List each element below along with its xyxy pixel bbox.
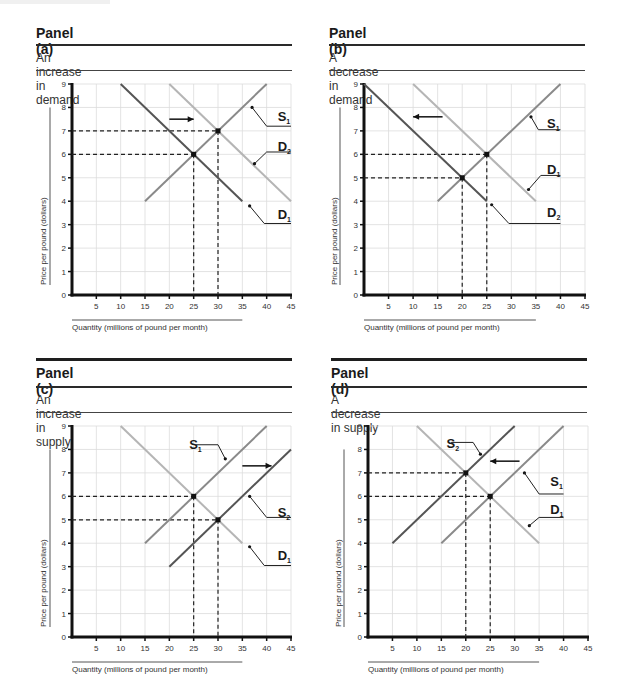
leader-line [529,517,563,525]
y-tick-label: 6 [354,150,359,159]
y-tick-label: 8 [358,445,363,454]
curve-label-subscript: 1 [198,446,202,453]
curve-d2 [169,84,291,201]
y-tick-label: 4 [354,197,359,206]
y-tick-label: 5 [62,174,67,183]
x-tick-label: 40 [262,302,271,311]
y-tick-label: 0 [62,291,67,300]
chart-panel-b: 012345678951015202530354045Quantity (mil… [330,80,590,332]
curve-label-subscript: 1 [559,483,563,490]
x-axis-title: Quantity (millions of pound per month) [72,323,208,332]
x-tick-label: 35 [238,644,247,653]
x-tick-label: 20 [458,302,467,311]
curve-label: D1 [278,207,291,223]
curve-label: S1 [550,474,563,490]
y-tick-label: 7 [62,127,67,136]
y-tick-label: 1 [62,268,67,277]
curve-label: D2 [547,205,560,221]
y-tick-label: 7 [358,469,363,478]
y-tick-label: 3 [62,221,67,230]
x-tick-label: 45 [287,644,296,653]
y-tick-label: 0 [62,633,67,642]
arrow-head-icon [413,114,419,120]
equilibrium-point [460,175,465,180]
x-tick-label: 45 [287,302,296,311]
chart-panel-d: 012345678951015202530354045Quantity (mil… [334,422,593,674]
curve-d1 [413,84,536,201]
x-tick-label: 35 [238,302,247,311]
curve-label: S1 [278,109,291,125]
x-tick-label: 15 [437,644,446,653]
curve-label-subscript: 2 [286,514,290,521]
x-tick-label: 25 [189,644,198,653]
curve-label-subscript: 2 [287,148,291,155]
curve-label: D1 [550,502,563,518]
curve-label: S2 [278,505,291,521]
x-tick-label: 5 [94,644,99,653]
x-tick-label: 25 [482,302,491,311]
curve-d1 [417,426,539,543]
x-tick-label: 15 [141,302,150,311]
y-tick-label: 5 [354,174,359,183]
x-tick-label: 10 [409,302,418,311]
x-tick-label: 45 [581,302,590,311]
y-tick-label: 1 [354,268,359,277]
y-tick-label: 9 [62,422,67,431]
y-tick-label: 2 [62,244,67,253]
y-tick-label: 8 [354,103,359,112]
x-tick-label: 35 [531,302,540,311]
grid [368,426,588,637]
y-tick-label: 6 [62,150,67,159]
y-axis-title: Price per pound (dollars) [334,539,343,627]
y-tick-label: 1 [62,610,67,619]
curve-label-subscript: 2 [556,214,560,221]
y-tick-label: 9 [354,80,359,89]
x-tick-label: 5 [390,644,395,653]
y-tick-label: 9 [62,80,67,89]
curve-s2 [169,449,291,566]
y-tick-label: 9 [358,422,363,431]
curve-d1 [121,84,243,201]
equilibrium-point [488,494,493,499]
y-tick-label: 4 [62,197,67,206]
y-tick-label: 2 [62,586,67,595]
x-tick-label: 10 [116,644,125,653]
x-axis-title: Quantity (millions of pound per month) [72,665,208,674]
curve-s1 [145,84,267,201]
y-tick-label: 0 [358,633,363,642]
y-tick-label: 5 [358,516,363,525]
y-tick-label: 3 [354,221,359,230]
y-tick-label: 2 [354,244,359,253]
y-tick-label: 6 [358,492,363,501]
curve-label: S2 [447,436,460,452]
curve-d1 [121,426,243,543]
x-tick-label: 35 [535,644,544,653]
y-tick-label: 4 [358,539,363,548]
y-tick-label: 5 [62,516,67,525]
curve-label-subscript: 2 [455,445,459,452]
equilibrium-point [216,517,221,522]
equilibrium-point [191,494,196,499]
x-tick-label: 30 [214,644,223,653]
curve-label: D2 [278,139,291,155]
curve-label-subscript: 1 [556,125,560,132]
x-tick-label: 30 [507,302,516,311]
y-tick-label: 6 [62,492,67,501]
curve-label-subscript: 1 [560,511,564,518]
grid [72,426,291,637]
y-tick-label: 8 [62,445,67,454]
y-tick-label: 4 [62,539,67,548]
y-tick-label: 7 [62,469,67,478]
y-tick-label: 3 [358,563,363,572]
equilibrium-point [463,470,468,475]
x-tick-label: 30 [510,644,519,653]
y-tick-label: 8 [62,103,67,112]
equilibrium-point [484,152,489,157]
x-tick-label: 20 [461,644,470,653]
arrow-head-icon [490,458,496,464]
y-axis-title: Price per pound (dollars) [330,197,339,285]
equilibrium-point [216,128,221,133]
supply-demand-charts: 012345678951015202530354045Quantity (mil… [0,0,623,698]
curve-label: D1 [547,162,560,178]
curve-s1 [145,426,267,543]
